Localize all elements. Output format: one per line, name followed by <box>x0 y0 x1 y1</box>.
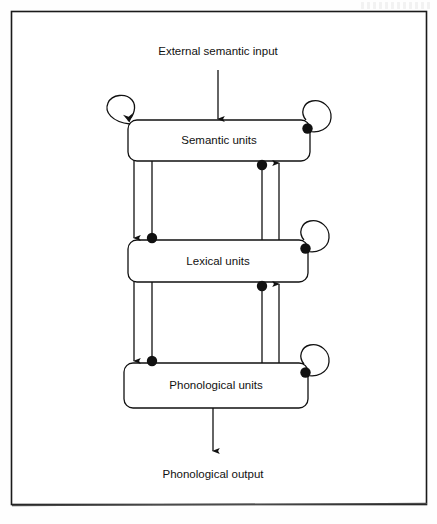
semantic-units-label: Semantic units <box>181 134 257 146</box>
conn-phonological-to-lexical-dot <box>257 281 267 291</box>
diagram-canvas: External semantic input Semantic units L… <box>0 0 437 524</box>
conn-semantic-to-lexical-dot <box>147 233 157 243</box>
conn-lexical-to-phonological-dot <box>147 356 157 366</box>
lexical-units-label: Lexical units <box>186 255 250 267</box>
external-input-label: External semantic input <box>158 45 278 57</box>
phonological-units-label: Phonological units <box>169 379 263 391</box>
phonological-self-loop-right-dot <box>300 367 310 377</box>
lexical-self-loop-right-dot <box>300 243 310 253</box>
figure-page: External semantic input Semantic units L… <box>0 0 437 524</box>
semantic-self-loop-right-dot <box>302 123 312 133</box>
conn-lexical-to-semantic-dot <box>257 160 267 170</box>
phonological-output-label: Phonological output <box>162 468 264 480</box>
